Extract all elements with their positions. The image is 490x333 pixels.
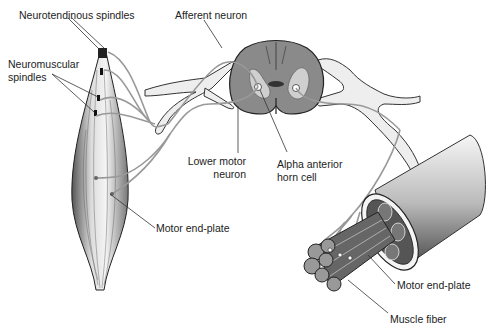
diagram-canvas: Neurotendinous spindles Neuromuscular sp…	[0, 0, 490, 333]
muscle	[72, 48, 128, 290]
label-motor-end-plate-right: Motor end-plate	[397, 279, 471, 292]
label-motor-end-plate-left: Motor end-plate	[156, 222, 230, 235]
label-neurotendinous-spindles: Neurotendinous spindles	[19, 9, 135, 22]
label-muscle-fiber: Muscle fiber	[390, 313, 447, 326]
label-alpha-anterior-horn-cell-line2: horn cell	[277, 171, 317, 184]
label-neuromuscular-spindles-line1: Neuromuscular	[8, 58, 79, 71]
spinal-cord-cross-section	[230, 41, 324, 115]
label-neuromuscular-spindles-line2: spindles	[8, 71, 47, 84]
label-alpha-anterior-horn-cell-line1: Alpha anterior	[277, 158, 342, 171]
spinal-nerve-left	[145, 61, 236, 134]
label-lower-motor-neuron-line1: Lower motor	[186, 155, 246, 168]
label-lower-motor-neuron-line2: neuron	[186, 168, 246, 181]
label-afferent-neuron: Afferent neuron	[175, 9, 247, 22]
